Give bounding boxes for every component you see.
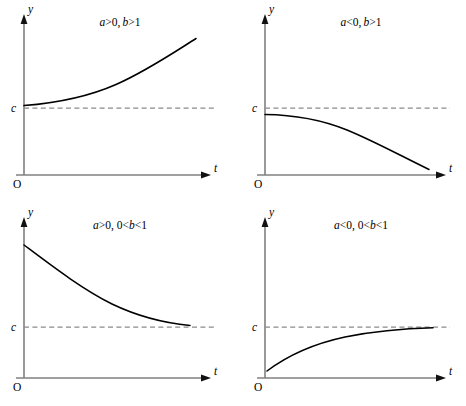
y-axis-label: y: [27, 3, 34, 16]
t-axis-arrowhead: [436, 172, 446, 179]
panel-top-right: y t O c a<0, b>1: [233, 0, 466, 203]
origin-label: O: [13, 178, 21, 190]
panel-title-bottom-left: a>0, 0<b<1: [93, 219, 147, 232]
origin-label: O: [254, 178, 262, 190]
asymptote-label: c: [11, 102, 16, 114]
y-axis-label: y: [268, 3, 275, 16]
y-axis-arrowhead: [21, 14, 28, 24]
curve-exponential-growth: [24, 39, 196, 106]
curve-exponential-decay-down: [265, 115, 429, 170]
t-axis-arrowhead: [436, 375, 446, 382]
y-axis-arrowhead: [262, 217, 269, 227]
panel-bottom-right: y t O c a<0, 0<b<1: [233, 203, 466, 406]
asymptote-label: c: [11, 321, 16, 333]
t-axis-label: t: [214, 365, 218, 377]
panel-bottom-left: y t O c a>0, 0<b<1: [0, 203, 233, 406]
y-axis-arrowhead: [21, 217, 28, 227]
y-axis-arrowhead: [262, 14, 269, 24]
t-axis-label: t: [214, 162, 218, 174]
t-axis-arrowhead: [201, 375, 211, 382]
graph-top-left: y t O c a>0, b>1: [0, 0, 233, 203]
origin-label: O: [254, 381, 262, 393]
panel-title-bottom-right: a<0, 0<b<1: [334, 219, 388, 232]
t-axis-label: t: [449, 365, 453, 377]
y-axis-label: y: [27, 206, 34, 219]
origin-label: O: [13, 381, 21, 393]
panel-title-top-left: a>0, b>1: [99, 16, 140, 29]
y-axis-label: y: [268, 206, 275, 219]
asymptote-label: c: [252, 102, 257, 114]
curve-exponential-rise-to-asymptote: [267, 328, 433, 371]
graph-top-right: y t O c a<0, b>1: [233, 0, 466, 203]
curve-exponential-decay-to-asymptote: [24, 245, 190, 326]
t-axis-label: t: [449, 162, 453, 174]
t-axis-arrowhead: [201, 172, 211, 179]
graph-bottom-left: y t O c a>0, 0<b<1: [0, 203, 233, 406]
asymptote-label: c: [252, 321, 257, 333]
figure-grid: y t O c a>0, b>1 y t O c a<0, b>1: [0, 0, 466, 406]
panel-top-left: y t O c a>0, b>1: [0, 0, 233, 203]
panel-title-top-right: a<0, b>1: [340, 16, 381, 29]
graph-bottom-right: y t O c a<0, 0<b<1: [233, 203, 466, 406]
